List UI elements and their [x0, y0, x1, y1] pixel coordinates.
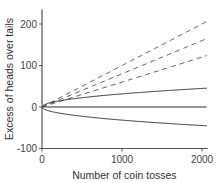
series-line--sqrt-n-	[42, 88, 207, 107]
ticks-layer: -1000100200010002000	[17, 19, 214, 165]
series-layer	[42, 22, 207, 126]
y-tick-label: 100	[20, 60, 37, 71]
x-tick-label: 1000	[111, 154, 134, 165]
y-axis-title: Excess of heads over tails	[3, 18, 15, 140]
x-tick-label: 0	[39, 154, 45, 165]
y-tick-label: 200	[20, 19, 37, 30]
y-tick-label: -100	[17, 143, 37, 154]
chart: -1000100200010002000 Number of coin toss…	[0, 0, 221, 183]
y-tick-label: 0	[31, 102, 37, 113]
series-line--sqrt-n-	[42, 107, 207, 126]
x-tick-label: 2000	[191, 154, 214, 165]
series-line-0-08n	[42, 39, 207, 107]
x-axis-title: Number of coin tosses	[72, 169, 176, 181]
